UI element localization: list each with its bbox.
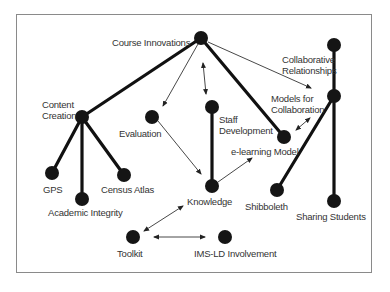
label-staff-development: Staff Development <box>219 114 273 136</box>
label-academic-integrity: Academic Integrity <box>48 207 123 218</box>
node-gps[interactable] <box>45 166 59 180</box>
node-ims-ld-involvement[interactable] <box>218 230 232 244</box>
label-collaborative-relationships: Collaborative Relationships <box>282 54 336 76</box>
node-course-innovations[interactable] <box>194 31 208 45</box>
node-census-atlas[interactable] <box>117 168 131 182</box>
label-course-innovations: Course Innovations <box>112 37 190 48</box>
label-line: Relationships <box>282 65 336 76</box>
label-content-creation: Content Creation <box>42 99 76 121</box>
node-models-for-collaboration[interactable] <box>327 89 341 103</box>
arrow-course-staff <box>203 63 206 94</box>
label-line: Collaborative <box>282 54 336 65</box>
node-sharing-students[interactable] <box>327 194 341 208</box>
label-line: Staff <box>219 114 273 125</box>
label-toolkit: Toolkit <box>117 248 143 259</box>
node-shibboleth[interactable] <box>270 183 284 197</box>
label-line: Development <box>219 125 273 136</box>
node-toolkit[interactable] <box>126 230 140 244</box>
edge-content-census <box>82 117 124 175</box>
arrow-elearning-models <box>296 118 310 130</box>
label-census-atlas: Census Atlas <box>101 184 154 195</box>
label-sharing-students: Sharing Students <box>296 211 366 222</box>
node-academic-integrity[interactable] <box>75 192 89 206</box>
label-ims-ld-involvement: IMS-LD Involvement <box>194 248 276 259</box>
edge-content-gps <box>52 117 82 173</box>
label-line: Content <box>42 99 76 110</box>
node-staff-development[interactable] <box>205 100 219 114</box>
arrow-evaluation-knowledge <box>158 121 201 174</box>
label-line: Collaboration <box>271 104 324 115</box>
label-line: Models for <box>271 93 324 104</box>
label-gps: GPS <box>43 184 62 195</box>
label-knowledge: Knowledge <box>187 196 232 207</box>
label-elearning-model: e-learning Model <box>231 146 299 157</box>
node-content-creation[interactable] <box>75 110 89 124</box>
node-knowledge[interactable] <box>205 179 219 193</box>
node-evaluation[interactable] <box>145 110 159 124</box>
label-shibboleth: Shibboleth <box>245 201 288 212</box>
label-models-for-collaboration: Models for Collaboration <box>271 93 324 115</box>
edge-course-content <box>82 38 201 117</box>
arrow-knowledge-elearning <box>218 158 252 182</box>
label-evaluation: Evaluation <box>119 128 161 139</box>
node-collaborative-relationships[interactable] <box>327 38 341 52</box>
label-line: Creation <box>42 110 76 121</box>
arrow-knowledge-toolkit <box>144 206 183 231</box>
node-elearning-model[interactable] <box>277 130 291 144</box>
